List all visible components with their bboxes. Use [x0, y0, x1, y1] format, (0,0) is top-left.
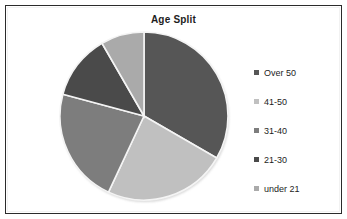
legend-swatch-icon-under-21 — [254, 186, 259, 191]
legend-swatch-icon-21-30 — [254, 157, 259, 162]
chart-legend: Over 50 41-50 31-40 21-30 under 21 — [254, 58, 346, 203]
chart-title: Age Split — [6, 14, 341, 25]
legend-label-31-40: 31-40 — [264, 126, 287, 136]
legend-label-under-21: under 21 — [264, 184, 300, 194]
chart-frame: Age Split Over 50 41-50 31-40 21-30 — [5, 5, 342, 214]
plot-area — [6, 28, 246, 210]
legend-label-over-50: Over 50 — [264, 68, 296, 78]
legend-item-41-50[interactable]: 41-50 — [254, 87, 346, 116]
legend-item-21-30[interactable]: 21-30 — [254, 145, 346, 174]
legend-label-21-30: 21-30 — [264, 155, 287, 165]
legend-label-41-50: 41-50 — [264, 97, 287, 107]
legend-swatch-icon-over-50 — [254, 70, 259, 75]
legend-swatch-icon-41-50 — [254, 99, 259, 104]
legend-item-under-21[interactable]: under 21 — [254, 174, 346, 203]
legend-swatch-icon-31-40 — [254, 128, 259, 133]
legend-item-over-50[interactable]: Over 50 — [254, 58, 346, 87]
pie-slices-svg — [58, 30, 234, 206]
legend-item-31-40[interactable]: 31-40 — [254, 116, 346, 145]
pie-chart[interactable] — [58, 30, 234, 206]
